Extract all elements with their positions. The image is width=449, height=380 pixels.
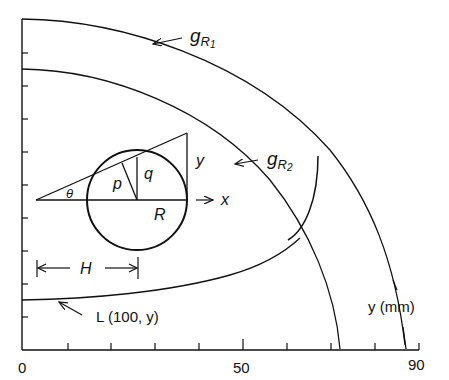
g-r1-leader-arrow xyxy=(153,38,182,44)
triangle-hypotenuse xyxy=(36,133,187,200)
label-x: x xyxy=(220,191,230,208)
y-axis-ticks xyxy=(22,53,28,317)
label-l-curve: L (100, y) xyxy=(96,308,159,325)
label-theta: θ xyxy=(66,186,73,201)
l-leader-arrow xyxy=(59,302,82,315)
label-g-r2: gR2 xyxy=(267,148,293,173)
segment-p xyxy=(122,163,137,200)
x-axis-ticks xyxy=(68,339,419,350)
x-tick-label-0: 0 xyxy=(18,359,26,376)
x-tick-label-90: 90 xyxy=(408,356,425,373)
label-h: H xyxy=(80,260,92,277)
label-q: q xyxy=(144,165,153,182)
geometry-diagram: 0 50 90 gR1 gR2 θ p q y x R H L xyxy=(0,0,449,380)
curve-g-r2 xyxy=(22,69,340,349)
curve-l xyxy=(22,238,300,300)
axes xyxy=(22,19,419,350)
label-g-r1: gR1 xyxy=(190,25,216,50)
curve-g-r1 xyxy=(22,19,405,345)
label-p: p xyxy=(112,175,122,192)
label-r: R xyxy=(154,206,166,223)
label-y-side: y xyxy=(195,152,205,169)
curve-g-r1-end xyxy=(403,327,406,349)
label-y-mm: y (mm) xyxy=(368,298,415,315)
triangle xyxy=(36,133,187,200)
x-tick-label-50: 50 xyxy=(233,359,250,376)
